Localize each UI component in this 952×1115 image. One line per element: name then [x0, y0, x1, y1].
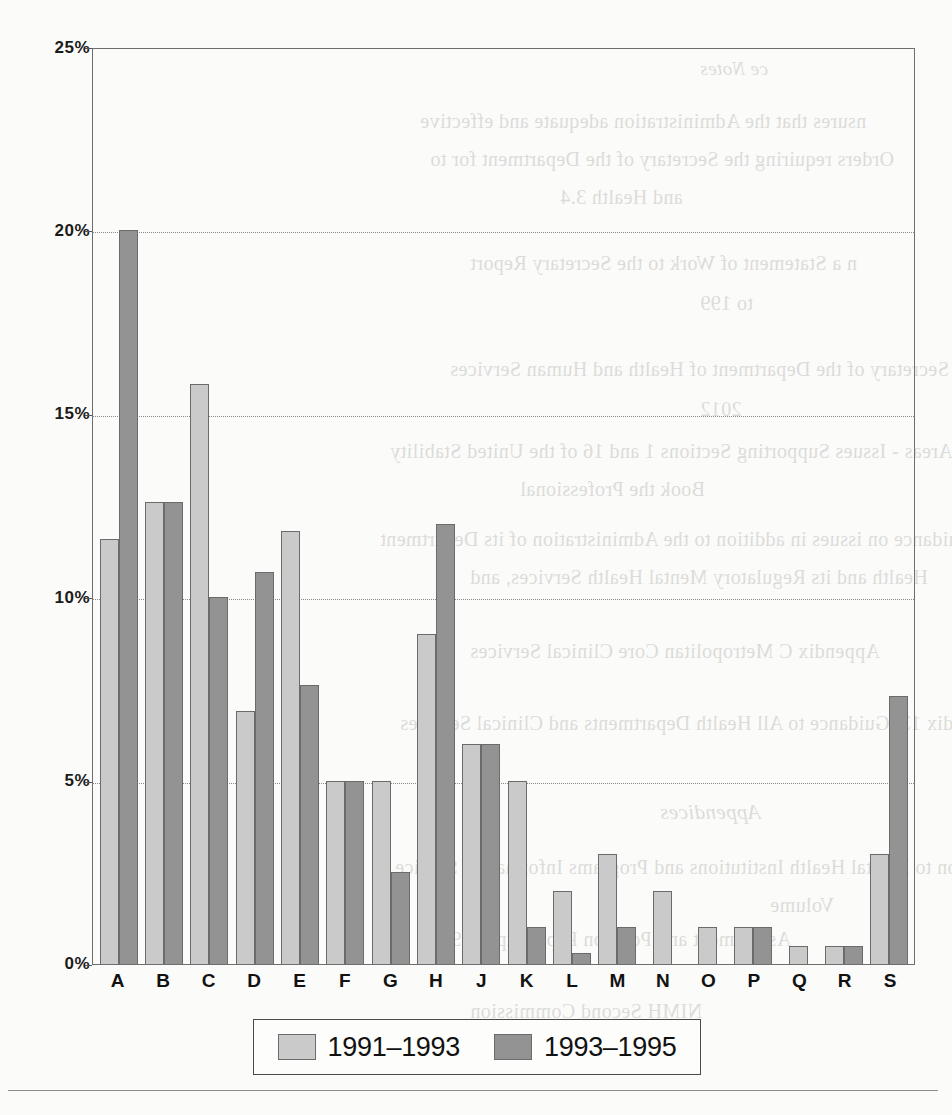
bar-g-series2 [391, 872, 410, 964]
bar-a-series2 [119, 230, 138, 964]
bar-group-o [685, 49, 730, 964]
y-tick-label: 0% [20, 954, 90, 974]
x-tick-label-b: B [140, 970, 185, 992]
bar-group-c [187, 49, 232, 964]
bar-group-d [232, 49, 277, 964]
bar-p-series2 [753, 927, 772, 964]
plot-area [92, 48, 915, 965]
x-tick-label-e: E [277, 970, 322, 992]
x-tick-label-m: M [595, 970, 640, 992]
bar-b-series2 [164, 502, 183, 964]
bar-group-l [549, 49, 594, 964]
bar-group-r [821, 49, 866, 964]
legend-item-1991-1993: 1991–1993 [278, 1032, 460, 1063]
y-tick-mark [85, 415, 92, 416]
bar-c-series1 [190, 384, 209, 964]
x-tick-label-q: Q [777, 970, 822, 992]
x-tick-label-n: N [640, 970, 685, 992]
bar-group-p [731, 49, 776, 964]
y-tick-label: 5% [20, 771, 90, 791]
bar-group-s [867, 49, 912, 964]
bar-n-series1 [653, 891, 672, 964]
x-tick-label-d: D [231, 970, 276, 992]
y-tick-mark [85, 965, 92, 966]
bar-group-n [640, 49, 685, 964]
bar-s-series1 [870, 854, 889, 964]
bar-d-series1 [236, 711, 255, 964]
legend-label: 1993–1995 [544, 1032, 676, 1063]
x-tick-label-l: L [549, 970, 594, 992]
x-tick-label-k: K [504, 970, 549, 992]
x-tick-label-h: H [413, 970, 458, 992]
bar-h-series1 [417, 634, 436, 964]
bar-g-series1 [372, 781, 391, 964]
bar-h-series2 [436, 524, 455, 964]
bar-f-series1 [326, 781, 345, 964]
x-tick-label-j: J [459, 970, 504, 992]
grouped-bar-chart: 25% 20% 15% 10% 5% 0% ABCDEFGHJKLMNOPQRS… [0, 0, 952, 1115]
bar-m-series2 [617, 927, 636, 964]
x-tick-label-p: P [731, 970, 776, 992]
bar-group-f [323, 49, 368, 964]
bar-l-series1 [553, 891, 572, 964]
bar-group-g [368, 49, 413, 964]
bar-p-series1 [734, 927, 753, 964]
legend-swatch-dark-gray [494, 1034, 532, 1060]
legend-label: 1991–1993 [328, 1032, 460, 1063]
y-tick-mark [85, 598, 92, 599]
bar-o-series1 [698, 927, 717, 964]
bar-f-series2 [345, 781, 364, 964]
bar-s-series2 [889, 696, 908, 964]
bar-group-h [413, 49, 458, 964]
y-tick-label: 10% [20, 588, 90, 608]
y-tick-label: 15% [20, 404, 90, 424]
x-tick-label-c: C [186, 970, 231, 992]
legend-swatch-light-gray [278, 1034, 316, 1060]
bar-k-series1 [508, 781, 527, 964]
bar-group-q [776, 49, 821, 964]
bar-a-series1 [100, 539, 119, 964]
x-tick-label-f: F [322, 970, 367, 992]
y-tick-label: 25% [20, 38, 90, 58]
x-tick-label-o: O [686, 970, 731, 992]
bar-q-series1 [789, 946, 808, 964]
x-axis-labels: ABCDEFGHJKLMNOPQRS [92, 970, 915, 992]
legend-item-1993-1995: 1993–1995 [494, 1032, 676, 1063]
bar-e-series1 [281, 531, 300, 964]
bar-group-b [141, 49, 186, 964]
chart-legend: 1991–1993 1993–1995 [253, 1019, 701, 1075]
bar-group-m [595, 49, 640, 964]
bar-e-series2 [300, 685, 319, 964]
bar-l-series2 [572, 953, 591, 964]
bar-k-series2 [527, 927, 546, 964]
bar-group-k [504, 49, 549, 964]
bar-group-a [96, 49, 141, 964]
bar-j-series2 [481, 744, 500, 964]
bar-j-series1 [462, 744, 481, 964]
x-tick-label-r: R [822, 970, 867, 992]
y-tick-mark [85, 48, 92, 49]
bars-layer [93, 49, 914, 964]
bar-r-series1 [825, 946, 844, 964]
x-tick-label-s: S [867, 970, 912, 992]
bar-r-series2 [844, 946, 863, 964]
bar-d-series2 [255, 572, 274, 964]
bar-c-series2 [209, 597, 228, 964]
y-tick-mark [85, 231, 92, 232]
x-tick-label-g: G [368, 970, 413, 992]
y-tick-label: 20% [20, 221, 90, 241]
bar-group-j [459, 49, 504, 964]
x-tick-label-a: A [95, 970, 140, 992]
bar-group-e [277, 49, 322, 964]
bar-b-series1 [145, 502, 164, 964]
y-tick-mark [85, 782, 92, 783]
bar-m-series1 [598, 854, 617, 964]
